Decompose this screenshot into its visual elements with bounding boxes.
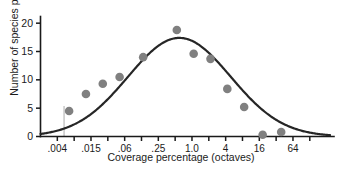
data-point <box>139 53 148 62</box>
data-point <box>82 90 91 99</box>
x-tick-label: .25 <box>151 143 165 154</box>
data-point <box>206 55 215 64</box>
plot-area: 05101520.004.015.06.251.041664 <box>0 0 338 175</box>
data-point <box>65 107 74 116</box>
y-tick-label: 10 <box>21 73 33 85</box>
data-point <box>223 85 232 94</box>
y-tick-label: 0 <box>27 130 33 142</box>
x-tick-label: .06 <box>118 143 132 154</box>
fitted-curve <box>41 38 331 135</box>
x-tick-label: .015 <box>81 143 101 154</box>
y-tick-label: 15 <box>21 45 33 57</box>
data-point <box>173 26 182 35</box>
x-tick-label: 16 <box>254 143 266 154</box>
x-tick-label: .004 <box>48 143 68 154</box>
data-point <box>189 49 198 58</box>
chart-figure: Number of species per octave Coverage pe… <box>0 0 338 175</box>
x-tick-label: 64 <box>287 143 299 154</box>
data-point <box>98 80 107 89</box>
data-point <box>240 103 249 112</box>
data-point <box>115 73 124 82</box>
y-tick-label: 20 <box>21 17 33 29</box>
x-tick-label: 1.0 <box>185 143 199 154</box>
data-point <box>277 128 286 137</box>
data-point <box>258 131 267 140</box>
x-tick-label: 4 <box>223 143 229 154</box>
y-tick-label: 5 <box>27 102 33 114</box>
